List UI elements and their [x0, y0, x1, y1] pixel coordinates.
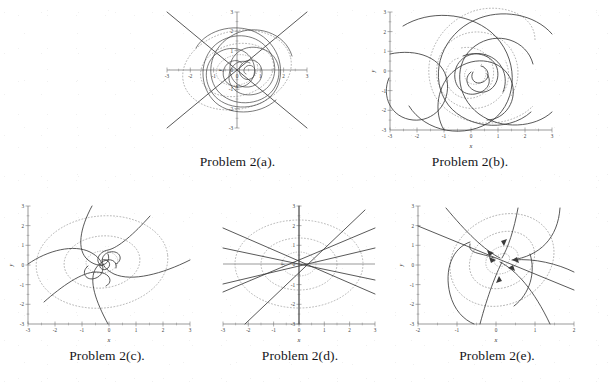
caption-problem-2e: Problem 2(e).	[408, 348, 586, 364]
svg-text:3: 3	[230, 9, 233, 15]
svg-text:2: 2	[383, 29, 386, 35]
svg-text:-2: -2	[382, 107, 387, 113]
svg-text:0: 0	[411, 262, 414, 268]
svg-text:3: 3	[551, 133, 554, 139]
svg-text:-3: -3	[165, 73, 170, 79]
svg-text:0: 0	[21, 262, 24, 268]
plot-c-xlabel: x	[107, 336, 111, 343]
svg-text:0: 0	[495, 327, 498, 333]
svg-text:0: 0	[383, 68, 386, 74]
svg-text:-2: -2	[53, 327, 58, 333]
plot-e-canvas: -2-10 12 321 0-1-2 -3 x y	[408, 198, 586, 346]
svg-text:-1: -1	[410, 282, 415, 288]
plot-d-xlabel: x	[297, 336, 301, 343]
svg-text:-1: -1	[442, 133, 447, 139]
svg-text:-3: -3	[410, 321, 415, 327]
svg-text:-1: -1	[20, 282, 25, 288]
svg-text:1: 1	[323, 327, 326, 333]
svg-text:-2: -2	[415, 133, 420, 139]
caption-problem-2a: Problem 2(a).	[155, 154, 320, 170]
svg-text:3: 3	[189, 327, 192, 333]
svg-text:-1: -1	[455, 327, 460, 333]
svg-text:0: 0	[298, 327, 301, 333]
svg-text:1: 1	[497, 133, 500, 139]
plot-panel-c: -3-2-1 012 3 321 0-1-2 -3 x y	[22, 198, 192, 346]
svg-text:2: 2	[348, 327, 351, 333]
svg-text:-2: -2	[246, 327, 251, 333]
svg-text:3: 3	[383, 9, 386, 15]
svg-text:2: 2	[292, 223, 295, 229]
plot-b-axes: -3-2-1 012 3 321 0-1-2 -3 x y	[369, 9, 554, 149]
plot-e-xlabel: x	[494, 336, 498, 343]
svg-text:3: 3	[292, 203, 295, 209]
caption-problem-2b: Problem 2(b).	[385, 154, 555, 170]
svg-text:3: 3	[411, 203, 414, 209]
plot-b-xtick-labels: -3-2-1 012 3	[388, 133, 554, 139]
svg-text:-2: -2	[20, 301, 25, 307]
plot-b-spiral-trajectories	[386, 14, 552, 131]
svg-text:0: 0	[470, 133, 473, 139]
svg-text:-3: -3	[382, 127, 387, 133]
plot-d-xtick-labels: -3-2-1 012 3	[221, 327, 377, 333]
svg-text:-1: -1	[80, 327, 85, 333]
plot-d-ylabel: y	[278, 262, 285, 266]
svg-text:1: 1	[383, 48, 386, 54]
svg-text:-2: -2	[291, 301, 296, 307]
svg-text:1: 1	[411, 242, 414, 248]
svg-text:-1: -1	[291, 282, 296, 288]
svg-text:1: 1	[534, 327, 537, 333]
plot-d-radial-trajectories	[223, 206, 375, 324]
svg-text:1: 1	[292, 242, 295, 248]
plot-e-ylabel: y	[397, 263, 404, 267]
svg-text:2: 2	[573, 327, 576, 333]
plot-b-xlabel: x	[469, 142, 473, 149]
plot-c-ylabel: y	[7, 263, 14, 267]
svg-text:2: 2	[282, 73, 285, 79]
plot-b-ylabel: y	[369, 69, 376, 73]
svg-text:1: 1	[21, 242, 24, 248]
svg-text:-3: -3	[291, 321, 296, 327]
svg-text:-3: -3	[229, 125, 234, 131]
svg-text:-3: -3	[388, 133, 393, 139]
svg-text:-3: -3	[20, 321, 25, 327]
svg-text:-2: -2	[416, 327, 421, 333]
svg-text:1: 1	[135, 327, 138, 333]
plot-b-ytick-labels: 321 0-1-2 -3	[382, 9, 387, 133]
phase-portrait-figure: -3-2-1 012 3 321 0-1-2 -3 x y	[0, 0, 611, 388]
plot-b-canvas: -3-2-1 012 3 321 0-1-2 -3 x y	[385, 4, 555, 152]
svg-text:0: 0	[108, 327, 111, 333]
svg-text:-3: -3	[221, 327, 226, 333]
plot-e-ytick-labels: 321 0-1-2 -3	[410, 203, 415, 327]
plot-c-spiral-trajectories	[28, 206, 190, 324]
plot-panel-b: -3-2-1 012 3 321 0-1-2 -3 x y	[385, 4, 555, 152]
caption-problem-2d: Problem 2(d).	[215, 348, 385, 364]
plot-c-xtick-labels: -3-2-1 012 3	[26, 327, 192, 333]
plot-e-xtick-labels: -2-10 12	[416, 327, 576, 333]
svg-text:-1: -1	[382, 88, 387, 94]
svg-text:-1: -1	[211, 73, 216, 79]
svg-text:2: 2	[411, 223, 414, 229]
svg-text:2: 2	[21, 223, 24, 229]
plot-a-ylabel: y	[216, 68, 223, 72]
plot-e-trajectories	[418, 208, 574, 324]
svg-text:-3: -3	[26, 327, 31, 333]
plot-c-canvas: -3-2-1 012 3 321 0-1-2 -3 x y	[22, 198, 192, 346]
plot-d-ytick-labels: 321 0-1-2 -3	[291, 203, 296, 327]
svg-text:-1: -1	[271, 327, 276, 333]
svg-text:2: 2	[524, 133, 527, 139]
svg-text:2: 2	[162, 327, 165, 333]
plot-c-ytick-labels: 321 0-1-2 -3	[20, 203, 25, 327]
plot-panel-a: -3-2-1 012 3 321 0-1-2 -3 x y	[155, 4, 320, 152]
svg-text:-2: -2	[410, 301, 415, 307]
plot-a-canvas: -3-2-1 012 3 321 0-1-2 -3 x y	[155, 4, 320, 152]
caption-problem-2c: Problem 2(c).	[22, 348, 192, 364]
svg-text:3: 3	[374, 327, 377, 333]
svg-text:0: 0	[236, 73, 239, 79]
plot-c-axes: -3-2-1 012 3 321 0-1-2 -3 x y	[7, 203, 192, 343]
svg-text:3: 3	[306, 73, 309, 79]
plot-d-canvas: -3-2-1 012 3 321 0-1-2 -3 x y	[215, 198, 385, 346]
plot-a-xtick-labels: -3-2-1 012 3	[165, 73, 309, 79]
plot-panel-d: -3-2-1 012 3 321 0-1-2 -3 x y	[215, 198, 385, 346]
svg-text:-2: -2	[188, 73, 193, 79]
svg-text:-1: -1	[229, 86, 234, 92]
